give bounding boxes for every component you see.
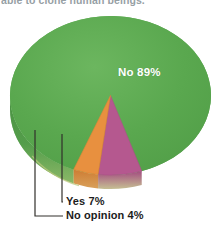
caption-clip: able to clone human beings.” [0, 0, 217, 9]
pie-label-yes: Yes 7% [66, 195, 105, 207]
pie-chart-figure: able to clone human beings.” [0, 0, 217, 228]
pie-label-no-opinion: No opinion 4% [66, 209, 144, 221]
pie-chart-graphic [0, 0, 217, 228]
pie-label-no: No 89% [118, 66, 161, 78]
caption-text: able to clone human beings.” [1, 0, 150, 6]
